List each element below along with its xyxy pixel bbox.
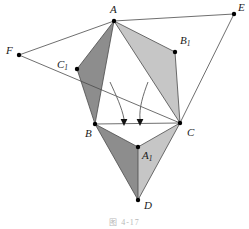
vertex-label-C1: C1 bbox=[57, 59, 68, 70]
shaded-regions bbox=[77, 21, 180, 200]
vertex-dot-A bbox=[112, 19, 116, 23]
vertex-dot-B1 bbox=[173, 50, 177, 54]
vertex-label-B1-text: B bbox=[180, 34, 187, 46]
vertex-dot-F bbox=[17, 53, 21, 57]
vertex-label-C-text: C bbox=[187, 126, 194, 138]
rotation-arrow-left-head bbox=[121, 119, 128, 126]
vertex-label-C1-subscript: 1 bbox=[64, 63, 68, 72]
segment-E-C bbox=[180, 14, 234, 123]
rotation-arrow-right bbox=[140, 82, 148, 119]
figure-caption: 图 4-17 bbox=[0, 216, 249, 227]
rotation-arrow-left bbox=[110, 82, 124, 119]
vertex-label-E: E bbox=[238, 2, 245, 13]
vertex-dot-C1 bbox=[75, 67, 79, 71]
segment-A-E bbox=[114, 14, 234, 21]
vertex-label-A-text: A bbox=[110, 3, 117, 15]
vertex-label-A1: A1 bbox=[142, 150, 152, 161]
vertex-label-B: B bbox=[85, 128, 92, 139]
vertex-label-A1-text: A bbox=[142, 149, 149, 161]
vertex-label-F-text: F bbox=[6, 44, 13, 56]
vertex-label-D-text: D bbox=[144, 199, 152, 211]
triangle-A-C1-B bbox=[77, 21, 114, 124]
geometry-figure: AEFC1B1BCA1D 图 4-17 bbox=[0, 0, 249, 229]
vertex-dot-E bbox=[232, 12, 236, 16]
rotation-arrows bbox=[110, 82, 148, 126]
vertex-label-A: A bbox=[110, 4, 117, 15]
vertex-dot-D bbox=[136, 198, 140, 202]
vertex-dot-B bbox=[93, 122, 97, 126]
rotation-arrow-right-head bbox=[137, 119, 144, 126]
vertex-label-B1: B1 bbox=[180, 35, 190, 46]
vertex-dot-A1 bbox=[136, 145, 140, 149]
geometry-diagram-canvas bbox=[0, 0, 249, 229]
vertex-label-F: F bbox=[6, 45, 13, 56]
vertex-label-A1-subscript: 1 bbox=[149, 154, 153, 163]
vertex-label-B1-subscript: 1 bbox=[187, 39, 191, 48]
segment-B-C bbox=[95, 123, 180, 124]
vertex-label-E-text: E bbox=[238, 1, 245, 13]
vertex-dot-C bbox=[178, 121, 182, 125]
vertex-label-D: D bbox=[144, 200, 152, 211]
vertex-label-B-text: B bbox=[85, 127, 92, 139]
vertex-label-C: C bbox=[187, 127, 194, 138]
